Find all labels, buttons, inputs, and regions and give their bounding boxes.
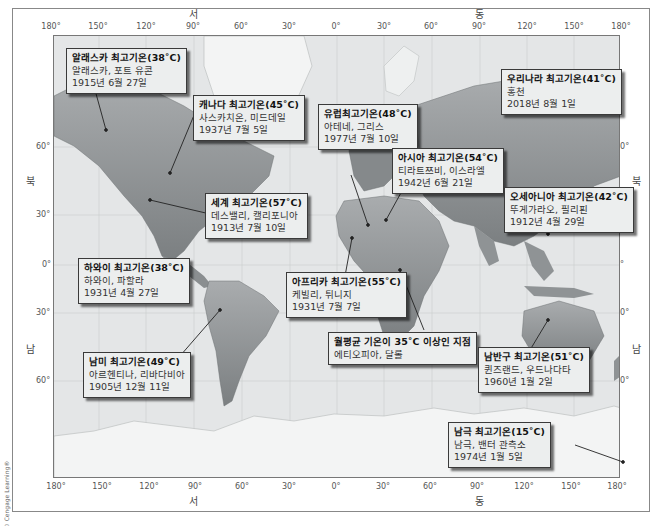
direction-south-left: 남	[26, 341, 35, 356]
callout-place: 에티오피아, 달롤	[334, 349, 471, 362]
callout-annual-35: 월평균 기온이 35˚C 이상인 지점 에티오피아, 달롤	[328, 332, 477, 365]
callout-world: 세계 최고기온(57˚C) 데스밸리, 캘리포니아 1913년 7월 10일	[205, 193, 308, 239]
callout-date: 1960년 1월 2일	[484, 376, 584, 389]
callout-title: 알래스카 최고기온(38˚C)	[72, 52, 181, 65]
lon-tick-bottom: 60°	[235, 482, 249, 491]
lon-tick-top: 120°	[136, 22, 155, 31]
lon-tick-bottom: 30°	[282, 482, 296, 491]
callout-date: 1974년 1월 5일	[454, 451, 545, 464]
callout-place: 데스밸리, 캘리포니아	[211, 210, 302, 223]
credit-text: © Cengage Learning®	[3, 461, 10, 526]
lon-tick-bottom: 120°	[514, 482, 533, 491]
callout-date: 1977년 7월 10일	[324, 133, 412, 146]
lon-tick-top: 60°	[424, 22, 438, 31]
lon-tick-bottom: 60°	[423, 482, 437, 491]
callout-date: 1913년 7월 10일	[211, 222, 302, 235]
lat-tick-left: 0°	[42, 260, 51, 269]
direction-west-top: 서	[189, 6, 198, 21]
callout-title: 우리나라 최고기온(41˚C)	[507, 73, 616, 86]
lon-tick-top: 150°	[88, 22, 107, 31]
callout-asia: 아시아 최고기온(54˚C) 티라트쯔비, 이스라엘 1942년 6월 21일	[392, 148, 504, 194]
callout-place: 케빌리, 튀니지	[292, 289, 401, 302]
callout-place: 아테네, 그리스	[324, 121, 412, 134]
callout-date: 2018년 8월 1일	[507, 98, 616, 111]
callout-title: 아프리카 최고기온(55˚C)	[292, 276, 401, 289]
callout-place: 홍천	[507, 86, 616, 99]
callout-korea: 우리나라 최고기온(41˚C) 홍천 2018년 8월 1일	[501, 69, 622, 115]
callout-alaska: 알래스카 최고기온(38˚C) 알래스카, 포트 유콘 1915년 6월 27일	[66, 48, 187, 94]
callout-place: 하와이, 파할라	[84, 275, 184, 288]
lon-tick-bottom: 30°	[376, 482, 390, 491]
lon-tick-bottom: 0°	[331, 482, 340, 491]
callout-place: 뚜게가라오, 필리핀	[510, 204, 628, 217]
lat-tick-left: 30°	[36, 210, 50, 219]
callout-title: 남극 최고기온(15˚C)	[454, 426, 545, 439]
callout-date: 1905년 12월 11일	[89, 381, 185, 394]
lon-tick-bottom: 180°	[46, 482, 65, 491]
callout-title: 남미 최고기온(49˚C)	[89, 356, 185, 369]
callout-south-america: 남미 최고기온(49˚C) 아르헨티나, 리바다비아 1905년 12월 11일	[83, 352, 191, 398]
lon-tick-bottom: 180°	[607, 482, 626, 491]
callout-date: 1931년 7월 7일	[292, 301, 401, 314]
callout-date: 1912년 4월 29일	[510, 216, 628, 229]
lat-tick-left: 60°	[36, 376, 50, 385]
lon-tick-bottom: 150°	[92, 482, 111, 491]
lon-tick-top: 30°	[282, 22, 296, 31]
callout-title: 하와이 최고기온(38˚C)	[84, 262, 184, 275]
callout-oceania: 오세아니아 최고기온(42˚C) 뚜게가라오, 필리핀 1912년 4월 29일	[504, 187, 634, 233]
lon-tick-top: 30°	[377, 22, 391, 31]
direction-east-top: 동	[475, 6, 484, 21]
lon-tick-top: 90°	[472, 22, 486, 31]
callout-title: 오세아니아 최고기온(42˚C)	[510, 191, 628, 204]
callout-place: 남극, 밴터 관측소	[454, 439, 545, 452]
callout-date: 1942년 6월 21일	[398, 177, 498, 190]
callout-title: 유럽최고기온(48˚C)	[324, 108, 412, 121]
direction-north-left: 북	[26, 173, 35, 188]
direction-east-bottom: 동	[475, 493, 484, 508]
callout-africa: 아프리카 최고기온(55˚C) 케빌리, 튀니지 1931년 7월 7일	[286, 272, 407, 318]
callout-place: 알래스카, 포트 유콘	[72, 65, 181, 78]
lon-tick-top: 120°	[517, 22, 536, 31]
lon-tick-top: 180°	[611, 22, 630, 31]
lon-tick-bottom: 120°	[139, 482, 158, 491]
lon-tick-top: 0°	[331, 22, 340, 31]
callout-date: 1937년 7월 5일	[199, 124, 299, 137]
callout-place: 사스카치온, 미드데일	[199, 112, 299, 125]
direction-west-bottom: 서	[189, 493, 198, 508]
direction-south-right: 남	[632, 341, 641, 356]
lon-tick-top: 150°	[564, 22, 583, 31]
callout-place: 퀸즈랜드, 우드나다타	[484, 364, 584, 377]
copyright-credit: © Cengage Learning®	[0, 470, 12, 520]
callout-south-hemisphere: 남반구 최고기온(51˚C) 퀸즈랜드, 우드나다타 1960년 1월 2일	[478, 347, 590, 393]
lon-tick-bottom: 90°	[188, 482, 202, 491]
lat-tick-left: 30°	[36, 308, 50, 317]
callout-title: 캐나다 최고기온(45˚C)	[199, 99, 299, 112]
callout-place: 아르헨티나, 리바다비아	[89, 369, 185, 382]
lon-tick-bottom: 90°	[470, 482, 484, 491]
lon-tick-top: 180°	[41, 22, 60, 31]
direction-north-right: 북	[632, 173, 641, 188]
callout-europe: 유럽최고기온(48˚C) 아테네, 그리스 1977년 7월 10일	[318, 104, 418, 150]
callout-date: 1931년 4월 27일	[84, 287, 184, 300]
callout-antarctica: 남극 최고기온(15˚C) 남극, 밴터 관측소 1974년 1월 5일	[448, 422, 551, 468]
callout-place: 티라트쯔비, 이스라엘	[398, 165, 498, 178]
callout-title: 세계 최고기온(57˚C)	[211, 197, 302, 210]
callout-title: 아시아 최고기온(54˚C)	[398, 152, 498, 165]
lat-tick-left: 60°	[36, 142, 50, 151]
callout-title: 월평균 기온이 35˚C 이상인 지점	[334, 336, 471, 349]
callout-date: 1915년 6월 27일	[72, 77, 181, 90]
callout-hawaii: 하와이 최고기온(38˚C) 하와이, 파할라 1931년 4월 27일	[78, 258, 190, 304]
lon-tick-top: 90°	[186, 22, 200, 31]
callout-title: 남반구 최고기온(51˚C)	[484, 351, 584, 364]
lon-tick-top: 60°	[234, 22, 248, 31]
callout-canada: 캐나다 최고기온(45˚C) 사스카치온, 미드데일 1937년 7월 5일	[193, 95, 305, 141]
lon-tick-bottom: 150°	[561, 482, 580, 491]
